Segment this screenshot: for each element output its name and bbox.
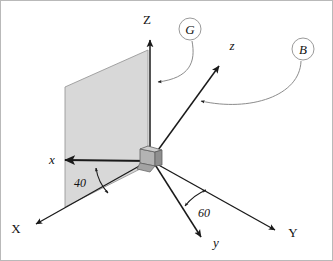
callout-B-label: B <box>299 42 307 57</box>
axis-y-line <box>154 163 201 237</box>
axis-x-line <box>65 160 150 161</box>
axis-x-label: x <box>48 152 55 167</box>
coordinate-frame-diagram: G B Z X Y x y z 40 60 <box>0 0 333 261</box>
angle-60-arc <box>185 190 206 206</box>
axis-z-line <box>153 66 219 157</box>
angle-40-label: 40 <box>74 176 86 190</box>
axis-Y-line <box>155 163 275 230</box>
axis-y-label: y <box>211 235 219 250</box>
axis-X-label: X <box>11 221 21 236</box>
angle-60-label: 60 <box>198 206 210 220</box>
axis-Z-label: Z <box>143 12 151 27</box>
axis-z-label: z <box>228 38 234 53</box>
callout-G[interactable]: G <box>158 18 201 82</box>
figure-border <box>1 1 333 261</box>
callout-B[interactable]: B <box>201 38 314 104</box>
callout-G-leader <box>158 41 193 82</box>
axis-Y-label: Y <box>288 225 298 240</box>
callout-B-leader <box>201 61 301 104</box>
callout-G-label: G <box>185 22 195 37</box>
figure-container: G B Z X Y x y z 40 60 <box>0 0 333 261</box>
origin-joint <box>137 146 162 172</box>
